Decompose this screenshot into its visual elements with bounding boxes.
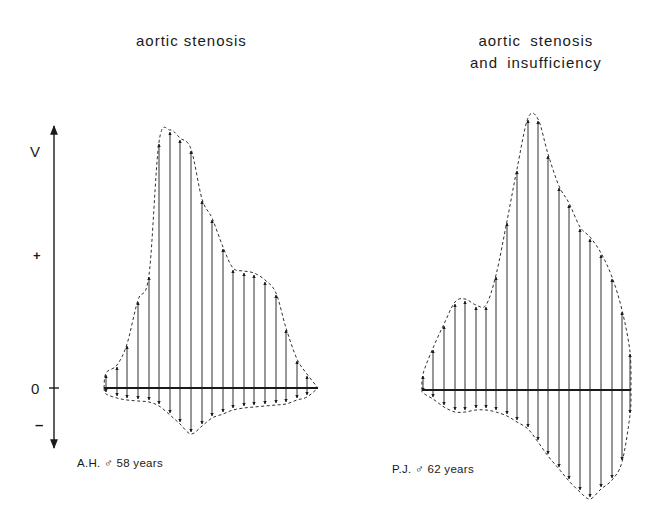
left-vector-diagram xyxy=(104,127,318,434)
voltage-axis xyxy=(49,126,59,448)
envelope-dashed-outline xyxy=(422,113,631,499)
vector-diagram-canvas xyxy=(0,0,657,517)
right-vector-diagram xyxy=(422,113,631,499)
